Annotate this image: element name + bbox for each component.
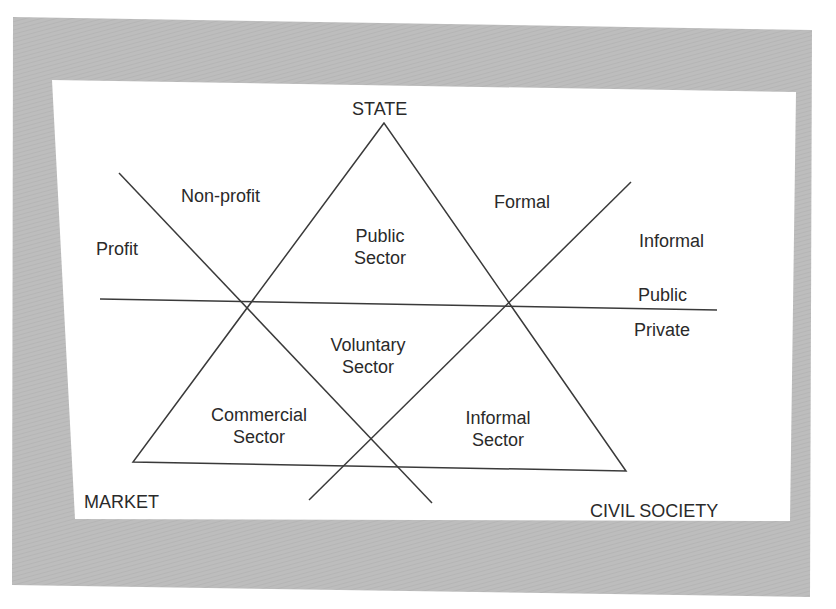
axis-label-informal: Informal — [639, 230, 704, 252]
sector-label-public-line2: Sector — [344, 247, 416, 269]
sector-label-voluntary: Voluntary Sector — [318, 334, 418, 378]
sector-label-informal-line2: Sector — [452, 429, 544, 451]
vertex-label-state: STATE — [352, 98, 407, 120]
sector-label-voluntary-line1: Voluntary — [318, 334, 418, 356]
sector-label-public-line1: Public — [344, 225, 416, 247]
sector-label-informal-line1: Informal — [452, 407, 544, 429]
sector-label-voluntary-line2: Sector — [318, 356, 418, 378]
sector-label-commercial: Commercial Sector — [199, 404, 319, 448]
axis-label-private: Private — [634, 319, 690, 341]
sector-label-public: Public Sector — [344, 225, 416, 269]
sector-label-commercial-line2: Sector — [199, 426, 319, 448]
axis-label-formal: Formal — [494, 191, 550, 213]
axis-label-public: Public — [638, 284, 687, 306]
axis-label-profit: Profit — [96, 238, 138, 260]
vertex-label-market: MARKET — [84, 491, 159, 513]
axis-label-non-profit: Non-profit — [181, 185, 260, 207]
vertex-label-civil-society: CIVIL SOCIETY — [590, 500, 718, 522]
sector-label-commercial-line1: Commercial — [199, 404, 319, 426]
sector-label-informal: Informal Sector — [452, 407, 544, 451]
